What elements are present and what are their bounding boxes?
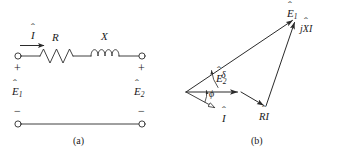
circuit-schematic-art (0, 0, 174, 153)
panel-b-phasor: E1 jXI E2 RI I δ ϕ (b) (174, 0, 348, 153)
phasor-RI-line (241, 92, 264, 105)
panel-b-caption: (b) (251, 135, 263, 146)
angle-phi-label: ϕ (209, 89, 214, 99)
current-label-a: I (31, 30, 35, 41)
panel-a-circuit: I R X + + − − E1 E2 (a) (0, 0, 174, 153)
polarity-minus-left: − (14, 105, 21, 117)
polarity-plus-left: + (14, 62, 21, 74)
load-voltage-label: E2 (134, 86, 144, 97)
phasor-jXI-label: jXI (300, 24, 312, 34)
panel-a-caption: (a) (73, 135, 84, 146)
polarity-minus-right: − (138, 105, 145, 117)
terminal-top-left-icon (15, 53, 21, 59)
figure-root: I R X + + − − E1 E2 (a) (0, 0, 348, 153)
polarity-plus-right: + (138, 62, 145, 74)
source-voltage-label: E1 (12, 86, 22, 97)
terminal-top-right-icon (139, 53, 145, 59)
reactance-label: X (101, 31, 108, 42)
terminal-bottom-right-icon (139, 121, 145, 127)
phasor-RI-label: RI (259, 112, 269, 123)
phasor-I-label: I (222, 113, 226, 124)
resistor-label: R (52, 32, 59, 43)
terminal-bottom-left-icon (15, 121, 21, 127)
phasor-diagram-art (174, 0, 348, 153)
phasor-E1-line (186, 20, 293, 92)
angle-delta-label: δ (221, 70, 226, 80)
phasor-E1-label: E1 (287, 8, 297, 19)
